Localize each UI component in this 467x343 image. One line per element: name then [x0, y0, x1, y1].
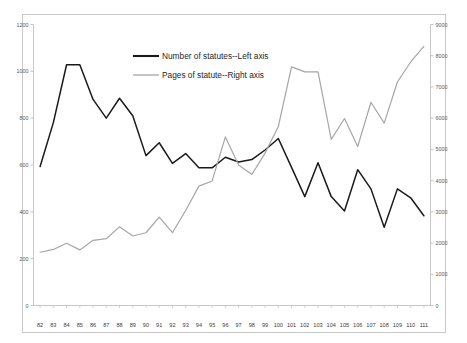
left-axis-tick-label: 600 — [20, 162, 29, 168]
x-axis-tick-label: 92 — [169, 322, 175, 328]
legend-label-1: Number of statutes--Left axis — [162, 51, 269, 61]
x-axis-tick-label: 97 — [235, 322, 241, 328]
x-axis-tick-label: 100 — [274, 322, 283, 328]
x-axis-tick-label: 101 — [287, 322, 296, 328]
x-axis-tick-label: 104 — [327, 322, 336, 328]
series-line-1 — [40, 65, 424, 228]
x-axis-tick-label: 93 — [183, 322, 189, 328]
x-axis-tick-label: 103 — [313, 322, 322, 328]
left-axis-tick-label: 800 — [20, 115, 29, 121]
x-axis-tick-label: 110 — [406, 322, 415, 328]
chart-container: 0200400600800100012000100020003000400050… — [0, 0, 467, 343]
right-axis-tick-label: 4000 — [436, 178, 448, 184]
x-axis-tick-label: 106 — [353, 322, 362, 328]
left-axis-tick-label: 400 — [20, 209, 29, 215]
x-axis-tick-label: 99 — [262, 322, 268, 328]
x-axis-tick-label: 94 — [196, 322, 202, 328]
right-axis-tick-label: 7000 — [436, 84, 448, 90]
x-axis-tick-label: 109 — [393, 322, 402, 328]
x-axis-tick-label: 96 — [222, 322, 228, 328]
right-axis-tick-label: 8000 — [436, 53, 448, 59]
right-axis-tick-label: 1000 — [436, 271, 448, 277]
x-axis-tick-label: 107 — [366, 322, 375, 328]
x-axis-tick-label: 90 — [143, 322, 149, 328]
x-axis-tick-label: 102 — [300, 322, 309, 328]
left-axis-tick-label: 200 — [20, 256, 29, 262]
right-axis-tick-label: 2000 — [436, 240, 448, 246]
left-axis-tick-label: 1200 — [17, 22, 29, 28]
x-axis-tick-label: 89 — [130, 322, 136, 328]
left-axis-tick-label: 0 — [26, 303, 29, 309]
x-axis-tick-label: 82 — [37, 322, 43, 328]
x-axis-tick-label: 95 — [209, 322, 215, 328]
chart-plot: 0200400600800100012000100020003000400050… — [0, 0, 467, 343]
x-axis-tick-label: 87 — [103, 322, 109, 328]
legend-label-2: Pages of statute--Right axis — [162, 70, 264, 80]
right-axis-tick-label: 0 — [436, 303, 439, 309]
x-axis-tick-label: 105 — [340, 322, 349, 328]
x-axis-tick-label: 84 — [63, 322, 69, 328]
x-axis-tick-label: 98 — [249, 322, 255, 328]
right-axis-tick-label: 9000 — [436, 22, 448, 28]
right-axis-tick-label: 5000 — [436, 146, 448, 152]
x-axis-tick-label: 91 — [156, 322, 162, 328]
x-axis-tick-label: 108 — [380, 322, 389, 328]
x-axis-tick-label: 86 — [90, 322, 96, 328]
x-axis-tick-label: 88 — [116, 322, 122, 328]
x-axis-tick-label: 83 — [50, 322, 56, 328]
right-axis-tick-label: 3000 — [436, 209, 448, 215]
left-axis-tick-label: 1000 — [17, 68, 29, 74]
x-axis-tick-label: 111 — [420, 322, 429, 328]
x-axis-tick-label: 85 — [77, 322, 83, 328]
right-axis-tick-label: 6000 — [436, 115, 448, 121]
